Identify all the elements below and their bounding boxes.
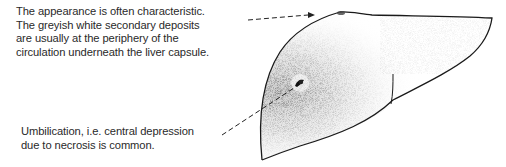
liver-illustration — [0, 0, 506, 167]
subcapsular-deposit — [337, 11, 345, 15]
liver-shading — [250, 0, 506, 167]
leader-line-appearance — [248, 15, 308, 20]
umbilicated-deposit — [291, 74, 309, 92]
arrowhead-appearance — [308, 12, 315, 18]
